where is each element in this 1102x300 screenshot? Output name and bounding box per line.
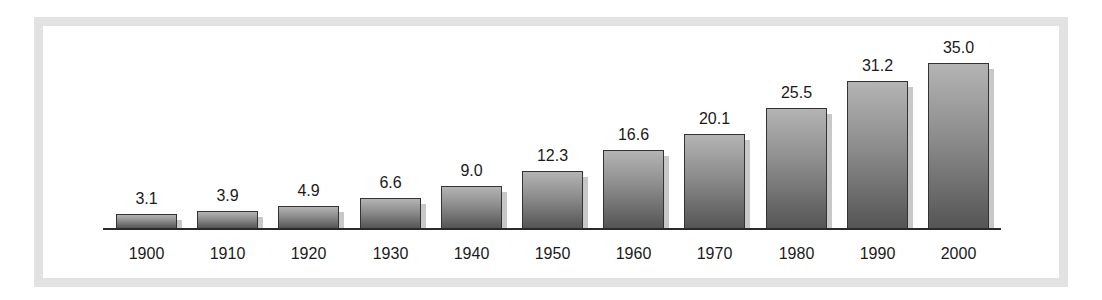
x-tick-label: 1910 <box>188 245 268 263</box>
bar-1940 <box>441 186 502 229</box>
value-label: 3.9 <box>188 187 268 205</box>
value-label: 35.0 <box>919 39 999 57</box>
x-tick-label: 2000 <box>919 245 999 263</box>
x-tick-label: 1920 <box>269 245 349 263</box>
x-tick-label: 1970 <box>675 245 755 263</box>
x-tick-label: 1990 <box>838 245 918 263</box>
x-tick-label: 1950 <box>513 245 593 263</box>
bar-1920 <box>278 206 339 229</box>
bar-1980 <box>766 108 827 229</box>
bar-1900 <box>116 214 177 229</box>
x-tick-label: 1940 <box>432 245 512 263</box>
bar-2000 <box>928 63 989 229</box>
value-label: 6.6 <box>351 174 431 192</box>
bar-1970 <box>684 134 745 229</box>
value-label: 25.5 <box>757 84 837 102</box>
x-tick-label: 1960 <box>594 245 674 263</box>
x-tick-label: 1930 <box>351 245 431 263</box>
bar-chart: 3.119003.919104.919206.619309.0194012.31… <box>0 0 1102 300</box>
bar-1990 <box>847 81 908 229</box>
bar-1950 <box>522 171 583 229</box>
value-label: 31.2 <box>838 57 918 75</box>
value-label: 3.1 <box>107 190 187 208</box>
value-label: 20.1 <box>675 110 755 128</box>
value-label: 4.9 <box>269 182 349 200</box>
value-label: 12.3 <box>513 147 593 165</box>
x-tick-label: 1900 <box>107 245 187 263</box>
x-axis-line <box>103 228 1001 230</box>
bar-1910 <box>197 211 258 229</box>
value-label: 16.6 <box>594 126 674 144</box>
value-label: 9.0 <box>432 162 512 180</box>
bar-1930 <box>360 198 421 229</box>
bar-1960 <box>603 150 664 229</box>
x-tick-label: 1980 <box>757 245 837 263</box>
